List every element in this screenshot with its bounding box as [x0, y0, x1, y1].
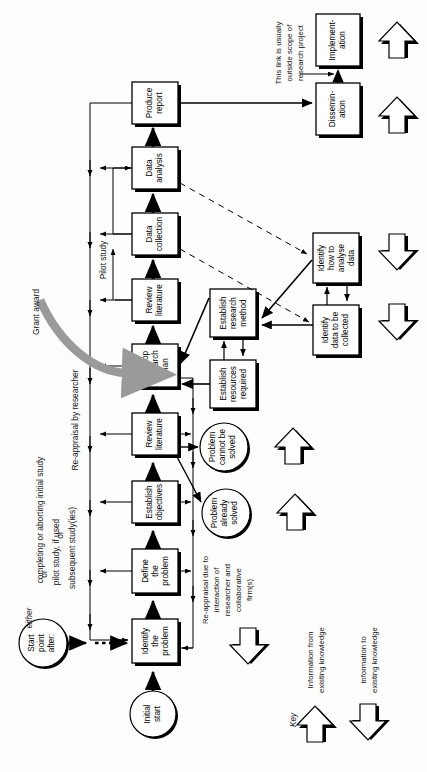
node-identify-the-problem-line-2: problem: [161, 626, 170, 656]
idtbc-line-0: Identify: [321, 316, 330, 343]
node-define-the-problem-line-0: Define: [141, 559, 150, 583]
problem-cannot-line-2: solved: [228, 435, 237, 459]
label-pilot-study: Pilot study: [98, 240, 108, 279]
flowchart-svg: Initial start Identify the problem Defin…: [0, 0, 427, 772]
node-develop-research-plan-line-1: research: [151, 350, 160, 382]
label-reappraisal-by-researcher: Re-appraisal by researcher: [70, 369, 80, 470]
node-review-literature-1: Review literature: [132, 413, 181, 458]
node-produce-report-line-1: report: [155, 92, 164, 114]
node-dissemination: Dissemin- ation: [316, 83, 363, 138]
node-establish-resources-required: Establish resources required: [210, 360, 259, 411]
node-initial-start-line-0: Initial: [143, 704, 152, 723]
node-data-analysis-line-1: analysis: [155, 153, 164, 183]
diagram-canvas: Initial start Identify the problem Defin…: [0, 0, 427, 772]
node-define-the-problem: Define the problem: [132, 549, 181, 596]
key-label-from-0: Information from: [306, 632, 315, 689]
node-implementation: Implement- ation: [316, 14, 363, 69]
implementation-line-1: ation: [338, 31, 347, 49]
node-establish-objectives: Establish objectives: [132, 481, 181, 526]
start-point-line-0: Start: [27, 634, 36, 652]
label-option-3: subsequent study(ies): [67, 507, 77, 589]
label-either: either: [25, 607, 34, 628]
node-data-analysis-line-0: Data: [145, 159, 154, 177]
node-review-literature-2-line-1: literature: [155, 284, 164, 316]
key-label-to-1: existing knowledge: [370, 627, 379, 693]
outside-scope-line-0: This link is usually: [274, 21, 283, 84]
label-grant-award: Grant award: [31, 289, 41, 335]
node-produce-report: Produce report: [132, 82, 181, 127]
node-establish-research-method: Establish research method: [210, 289, 259, 340]
err-line-0: Establish: [219, 367, 228, 401]
problem-cannot-line-1: cannot be: [218, 429, 227, 465]
ihad-line-3: data: [347, 250, 356, 266]
label-reappraisal-interaction-2: researcher and: [223, 564, 232, 616]
key-label-from-1: existing knowledge: [317, 627, 326, 693]
dissemination-line-0: Dissemin-: [328, 91, 337, 128]
erm-line-1: research: [229, 297, 238, 329]
label-reappraisal-interaction-4: firm(s): [245, 579, 254, 601]
ihad-line-0: Identify: [317, 244, 326, 271]
node-identify-the-problem: Identify the problem: [132, 619, 181, 666]
node-develop-research-plan-line-0: Develop: [141, 351, 150, 381]
erm-line-2: method: [239, 299, 248, 327]
node-review-literature-2: Review literature: [132, 279, 181, 324]
node-produce-report-line-0: Produce: [145, 87, 154, 118]
erm-line-0: Establish: [219, 296, 228, 330]
node-develop-research-plan: Develop research plan: [132, 344, 181, 390]
problem-cannot-line-0: Problem: [208, 432, 217, 463]
start-point-line-1: point: [37, 633, 46, 651]
problem-already-line-2: solved: [230, 501, 239, 525]
implementation-line-0: Implement-: [328, 19, 337, 60]
dissemination-line-1: ation: [338, 100, 347, 118]
node-data-collection-line-1: collection: [155, 216, 164, 251]
node-define-the-problem-line-2: problem: [161, 556, 170, 586]
outside-scope-line-1: outside scope of: [285, 24, 294, 82]
node-identify-data-to-be-collected: Identify data to be collected: [313, 305, 362, 358]
node-data-analysis: Data analysis: [132, 147, 181, 192]
err-line-1: resources: [229, 366, 238, 402]
node-define-the-problem-line-1: the: [151, 565, 160, 577]
node-initial-start-line-1: start: [153, 705, 162, 722]
node-data-collection: Data collection: [132, 213, 181, 258]
node-establish-objectives-line-1: objectives: [155, 484, 164, 520]
problem-already-line-1: already: [220, 499, 229, 527]
label-option-1: completing or aborting initial study: [35, 456, 45, 583]
node-identify-the-problem-line-0: Identify: [141, 627, 150, 654]
idtbc-line-1: data to be: [331, 311, 340, 348]
outside-scope-line-2: research project: [296, 24, 305, 81]
node-develop-research-plan-line-2: plan: [161, 358, 170, 374]
label-option-2: pilot study, if used: [51, 518, 61, 585]
node-identify-how-to-analyse-data: Identify how to analyse data: [313, 233, 362, 286]
label-outside-scope: This link is usually outside scope of re…: [274, 21, 305, 84]
ihad-line-2: analyse: [337, 243, 346, 272]
ihad-line-1: how to: [327, 245, 336, 270]
label-reappraisal-interaction-0: Re-appraisal due to: [201, 555, 210, 624]
problem-already-line-0: Problem: [210, 498, 219, 529]
label-reappraisal-interaction-1: interaction of: [212, 567, 221, 612]
err-line-2: required: [239, 369, 248, 399]
start-point-line-2: after:: [47, 634, 56, 653]
node-identify-the-problem-line-1: the: [151, 635, 160, 647]
key-label-to-0: Information to: [359, 636, 368, 684]
node-review-literature-1-line-0: Review: [145, 420, 154, 447]
node-data-collection-line-0: Data: [145, 225, 154, 243]
idtbc-line-2: collected: [341, 313, 350, 346]
node-review-literature-2-line-0: Review: [145, 286, 154, 313]
node-establish-objectives-line-0: Establish: [145, 485, 154, 519]
node-review-literature-1-line-1: literature: [155, 418, 164, 450]
label-reappraisal-interaction-3: collaborative: [234, 568, 243, 612]
